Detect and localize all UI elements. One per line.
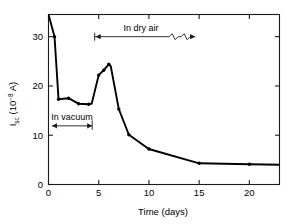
annotation-label-in-dry-air: In dry air	[123, 23, 158, 33]
data-point-2	[67, 97, 70, 100]
data-point-12	[248, 163, 251, 166]
data-point-5	[97, 73, 100, 76]
data-point-9	[127, 133, 130, 136]
y-axis-label-paren-open: (10	[7, 101, 18, 117]
y-tick-label-1: 10	[32, 130, 43, 141]
x-tick-label-0: 0	[46, 187, 51, 198]
x-tick-label-3: 15	[194, 187, 205, 198]
y-axis-label-paren-close: A)	[7, 82, 18, 94]
line-chart: 05101520 0102030 In dry airIn vacuum Tim…	[0, 0, 297, 224]
x-tick-label-4: 20	[244, 187, 255, 198]
data-point-0	[53, 35, 56, 38]
x-tick-label-2: 10	[144, 187, 155, 198]
data-point-11	[197, 162, 200, 165]
data-point-10	[147, 147, 150, 150]
data-point-6	[102, 68, 105, 71]
y-tick-label-2: 20	[32, 80, 43, 91]
y-tick-label-0: 0	[38, 179, 43, 190]
x-axis-label: Time (days)	[138, 206, 188, 217]
data-point-7	[107, 63, 110, 66]
figure-container: 05101520 0102030 In dry airIn vacuum Tim…	[0, 0, 297, 224]
annotation-label-in-vacuum: In vacuum	[51, 112, 93, 122]
data-point-4	[87, 102, 90, 105]
data-point-1	[57, 98, 60, 101]
data-point-3	[77, 102, 80, 105]
data-point-8	[117, 107, 120, 110]
x-tick-label-1: 5	[96, 187, 101, 198]
y-tick-label-3: 30	[32, 31, 43, 42]
